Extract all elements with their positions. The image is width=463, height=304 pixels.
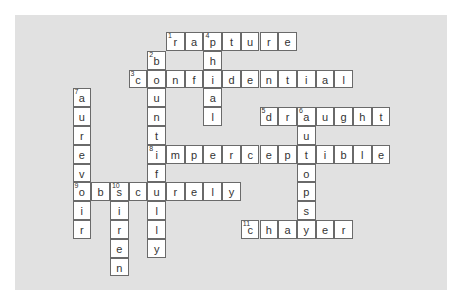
crossword-cell[interactable]: b: [91, 182, 110, 201]
crossword-cell[interactable]: 2b: [147, 51, 166, 70]
crossword-cell[interactable]: e: [316, 220, 335, 239]
crossword-cell[interactable]: n: [110, 258, 129, 277]
crossword-cell[interactable]: s: [297, 201, 316, 220]
crossword-cell[interactable]: e: [278, 32, 297, 51]
crossword-cell[interactable]: l: [147, 220, 166, 239]
crossword-cell[interactable]: t: [222, 32, 241, 51]
cell-letter: l: [212, 186, 214, 198]
crossword-cell[interactable]: 11c: [241, 220, 260, 239]
crossword-cell[interactable]: n: [260, 70, 279, 89]
cell-letter: a: [79, 92, 85, 104]
crossword-cell[interactable]: 8i: [147, 145, 166, 164]
crossword-cell[interactable]: 4p: [203, 32, 222, 51]
crossword-cell[interactable]: t: [147, 126, 166, 145]
crossword-cell[interactable]: 1r: [166, 32, 185, 51]
crossword-cell[interactable]: o: [297, 164, 316, 183]
crossword-cell[interactable]: i: [297, 70, 316, 89]
cell-letter: r: [117, 224, 121, 236]
crossword-cell[interactable]: e: [241, 70, 260, 89]
crossword-cell[interactable]: a: [278, 220, 297, 239]
crossword-cell[interactable]: m: [166, 145, 185, 164]
crossword-cell[interactable]: n: [147, 107, 166, 126]
crossword-cell[interactable]: f: [185, 70, 204, 89]
crossword-cell[interactable]: r: [110, 220, 129, 239]
crossword-cell[interactable]: v: [73, 164, 92, 183]
crossword-cell[interactable]: r: [278, 107, 297, 126]
crossword-cell[interactable]: e: [110, 239, 129, 258]
crossword-cell[interactable]: b: [334, 145, 353, 164]
crossword-cell[interactable]: h: [353, 107, 372, 126]
crossword-cell[interactable]: 5d: [260, 107, 279, 126]
crossword-cell[interactable]: e: [203, 145, 222, 164]
crossword-cell[interactable]: h: [203, 51, 222, 70]
crossword-cell[interactable]: i: [316, 145, 335, 164]
crossword-cell[interactable]: t: [297, 145, 316, 164]
crossword-cell[interactable]: u: [297, 126, 316, 145]
crossword-cell[interactable]: p: [278, 145, 297, 164]
crossword-cell[interactable]: a: [203, 88, 222, 107]
crossword-cell[interactable]: u: [73, 107, 92, 126]
crossword-cell[interactable]: e: [73, 145, 92, 164]
cell-letter: p: [284, 149, 290, 161]
crossword-cell[interactable]: r: [334, 220, 353, 239]
crossword-cell[interactable]: c: [129, 182, 148, 201]
crossword-cell[interactable]: a: [185, 32, 204, 51]
crossword-cell[interactable]: p: [297, 182, 316, 201]
crossword-cell[interactable]: i: [73, 201, 92, 220]
cell-letter: u: [154, 92, 160, 104]
cell-letter: e: [247, 74, 253, 86]
crossword-cell[interactable]: r: [222, 145, 241, 164]
crossword-cell[interactable]: 10s: [110, 182, 129, 201]
crossword-cell[interactable]: o: [147, 70, 166, 89]
crossword-cell[interactable]: c: [241, 145, 260, 164]
crossword-cell[interactable]: h: [260, 220, 279, 239]
crossword-cell[interactable]: i: [110, 201, 129, 220]
crossword-cell[interactable]: i: [203, 70, 222, 89]
cell-letter: r: [342, 224, 346, 236]
crossword-cell[interactable]: l: [147, 201, 166, 220]
crossword-cell[interactable]: l: [203, 107, 222, 126]
crossword-cell[interactable]: 3c: [129, 70, 148, 89]
cell-letter: o: [303, 168, 309, 180]
cell-letter: f: [193, 74, 196, 86]
crossword-cell[interactable]: y: [147, 239, 166, 258]
crossword-cell[interactable]: e: [185, 182, 204, 201]
crossword-cell[interactable]: u: [147, 88, 166, 107]
crossword-cell[interactable]: g: [334, 107, 353, 126]
cell-letter: e: [378, 149, 384, 161]
crossword-cell[interactable]: n: [166, 70, 185, 89]
cell-letter: l: [155, 205, 157, 217]
cell-letter: c: [135, 74, 141, 86]
cell-letter: t: [305, 149, 308, 161]
crossword-cell[interactable]: p: [185, 145, 204, 164]
crossword-cell[interactable]: d: [222, 70, 241, 89]
crossword-cell[interactable]: 6a: [297, 107, 316, 126]
crossword-cell[interactable]: 9o: [73, 182, 92, 201]
crossword-cell[interactable]: l: [353, 145, 372, 164]
crossword-cell[interactable]: t: [372, 107, 391, 126]
crossword-cell[interactable]: e: [260, 145, 279, 164]
crossword-cell[interactable]: t: [278, 70, 297, 89]
cell-letter: r: [174, 186, 178, 198]
clue-number: 9: [75, 182, 79, 190]
cell-letter: e: [79, 149, 85, 161]
crossword-cell[interactable]: e: [372, 145, 391, 164]
crossword-cell[interactable]: r: [260, 32, 279, 51]
crossword-cell[interactable]: a: [316, 70, 335, 89]
crossword-cell[interactable]: y: [222, 182, 241, 201]
cell-letter: y: [303, 224, 309, 236]
cell-letter: l: [361, 149, 363, 161]
crossword-cell[interactable]: r: [166, 182, 185, 201]
crossword-cell[interactable]: l: [334, 70, 353, 89]
clue-number: 8: [149, 145, 153, 153]
crossword-cell[interactable]: r: [73, 126, 92, 145]
crossword-cell[interactable]: u: [147, 182, 166, 201]
cell-letter: u: [79, 111, 85, 123]
crossword-cell[interactable]: l: [203, 182, 222, 201]
crossword-cell[interactable]: u: [241, 32, 260, 51]
crossword-cell[interactable]: u: [316, 107, 335, 126]
crossword-cell[interactable]: y: [297, 220, 316, 239]
crossword-cell[interactable]: f: [147, 164, 166, 183]
crossword-cell[interactable]: r: [73, 220, 92, 239]
crossword-cell[interactable]: 7a: [73, 88, 92, 107]
